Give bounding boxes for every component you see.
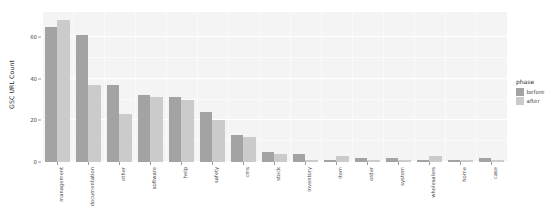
bar-group bbox=[76, 12, 100, 162]
bar-group bbox=[107, 12, 131, 162]
legend-item-before[interactable]: before bbox=[516, 88, 545, 96]
bar-group bbox=[200, 12, 224, 162]
plot-panel bbox=[42, 12, 507, 162]
bar-before[interactable] bbox=[107, 85, 119, 162]
bar-after[interactable] bbox=[88, 85, 100, 162]
y-axis-title: GSC URL Count bbox=[4, 0, 18, 168]
legend-item-label: after bbox=[527, 98, 540, 104]
bar-group bbox=[355, 12, 379, 162]
bar-after[interactable] bbox=[243, 137, 255, 162]
legend-title: phase bbox=[516, 78, 545, 85]
bar-before[interactable] bbox=[76, 35, 88, 162]
legend-items: beforeafter bbox=[516, 88, 545, 106]
bar-after[interactable] bbox=[150, 97, 162, 162]
bar-before[interactable] bbox=[293, 154, 305, 162]
bar-group bbox=[293, 12, 317, 162]
bar-group bbox=[138, 12, 162, 162]
bar-group bbox=[324, 12, 348, 162]
bar-after[interactable] bbox=[274, 154, 286, 162]
y-axis-title-label: GSC URL Count bbox=[8, 60, 15, 109]
y-tick-label: 40 bbox=[30, 76, 37, 82]
y-tick-label: 20 bbox=[30, 117, 37, 123]
bar-before[interactable] bbox=[262, 152, 274, 162]
x-tick-label: case bbox=[492, 167, 498, 179]
bar-before[interactable] bbox=[169, 97, 181, 162]
x-tick: case bbox=[462, 162, 522, 213]
bar-group bbox=[417, 12, 441, 162]
y-tick-mark bbox=[38, 78, 41, 79]
x-tick-label-wrap: case bbox=[488, 165, 496, 213]
bar-group bbox=[231, 12, 255, 162]
legend-swatch-icon bbox=[516, 97, 524, 105]
legend-item-after[interactable]: after bbox=[516, 97, 545, 105]
bar-group bbox=[479, 12, 503, 162]
y-tick-label: 60 bbox=[30, 34, 37, 40]
bar-after[interactable] bbox=[212, 120, 224, 162]
bar-after[interactable] bbox=[119, 114, 131, 162]
bar-group bbox=[169, 12, 193, 162]
legend-swatch-icon bbox=[516, 88, 524, 96]
x-axis-ticks: managementdocumentationothersoftwarehelp… bbox=[42, 162, 507, 222]
y-axis-ticks: 0204060 bbox=[18, 12, 40, 162]
legend: phase beforeafter bbox=[516, 78, 545, 107]
bar-before[interactable] bbox=[45, 27, 57, 162]
bar-group bbox=[45, 12, 69, 162]
y-tick-mark bbox=[38, 37, 41, 38]
bar-after[interactable] bbox=[181, 100, 193, 163]
bar-before[interactable] bbox=[200, 112, 212, 162]
y-tick-mark bbox=[38, 120, 41, 121]
bar-after[interactable] bbox=[57, 20, 69, 162]
legend-item-label: before bbox=[527, 89, 545, 95]
bar-series-container bbox=[42, 12, 507, 162]
bar-before[interactable] bbox=[138, 95, 150, 162]
bar-group bbox=[386, 12, 410, 162]
chart-root: GSC URL Count 0204060 managementdocument… bbox=[0, 0, 560, 222]
bar-group bbox=[448, 12, 472, 162]
bar-group bbox=[262, 12, 286, 162]
bar-before[interactable] bbox=[231, 135, 243, 162]
